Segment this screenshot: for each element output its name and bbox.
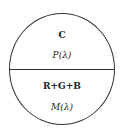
- bottom-title: R+G+B: [9, 82, 115, 91]
- bottom-function: M(λ): [9, 103, 115, 112]
- horizontal-divider: [9, 69, 115, 70]
- top-title: C: [9, 31, 115, 40]
- top-function: P(λ): [9, 51, 115, 60]
